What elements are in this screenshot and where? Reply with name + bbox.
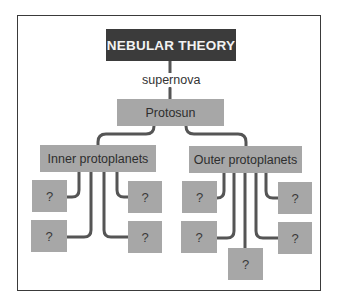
protosun-node: Protosun <box>117 99 224 126</box>
inner-protoplanets-node: Inner protoplanets <box>40 145 156 172</box>
inner-unknown-node: ? <box>128 221 162 253</box>
outer-unknown-node: ? <box>182 181 217 213</box>
inner-unknown-node: ? <box>32 180 67 212</box>
outer-unknown-node: ? <box>278 182 312 214</box>
outer-unknown-node: ? <box>181 221 217 253</box>
inner-unknown-node: ? <box>31 220 67 252</box>
edge-label-supernova: supernova <box>140 73 202 87</box>
outer-protoplanets-node: Outer protoplanets <box>189 146 302 173</box>
title-node: NEBULAR THEORY <box>106 29 236 61</box>
inner-unknown-node: ? <box>128 181 162 213</box>
outer-unknown-node: ? <box>228 248 263 280</box>
outer-unknown-node: ? <box>278 222 312 254</box>
